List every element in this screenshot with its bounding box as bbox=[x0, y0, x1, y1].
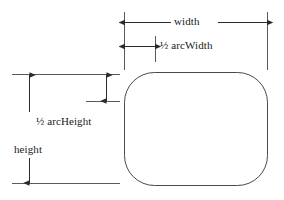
rounded-rectangle-shape bbox=[125, 73, 268, 186]
diagram-vector-layer bbox=[0, 0, 284, 200]
half-archeight-label: ½ arcHeight bbox=[36, 116, 91, 127]
diagram-canvas: width ½ arcWidth ½ arcHeight height bbox=[0, 0, 284, 200]
half-arcwidth-label: ½ arcWidth bbox=[160, 40, 212, 51]
height-label: height bbox=[14, 144, 42, 155]
extension-lines-left bbox=[12, 75, 120, 184]
width-label: width bbox=[174, 16, 200, 27]
